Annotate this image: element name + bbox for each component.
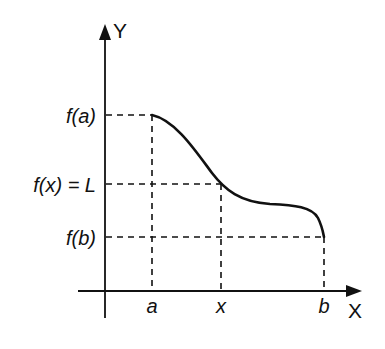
x-tick-a: a <box>146 295 157 317</box>
x-tick-b: b <box>318 295 329 317</box>
y-axis-label: Y <box>113 19 127 42</box>
y-tick-fx: f(x) = L <box>33 174 96 196</box>
x-axis-label: X <box>348 299 362 322</box>
guide-lines <box>106 115 324 291</box>
y-axis-arrow-icon <box>99 24 111 40</box>
mean-value-diagram: Y X f(a) f(x) = L f(b) a x b <box>0 0 385 349</box>
y-tick-fa: f(a) <box>66 105 96 127</box>
function-curve <box>152 115 324 237</box>
y-tick-fb: f(b) <box>66 227 96 249</box>
x-tick-x: x <box>215 295 227 317</box>
x-axis-arrow-icon <box>346 285 362 297</box>
